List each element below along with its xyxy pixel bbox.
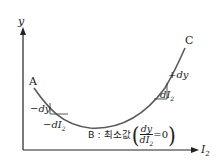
minimum-annotation: B : 최소값 ( dy dI2 =0 ) (88, 124, 176, 146)
left-di-label: −dI2 (43, 120, 66, 132)
y-axis-arrow-icon (20, 27, 26, 35)
paren-right: ) (168, 124, 176, 146)
x-axis-label: I2 (201, 144, 210, 158)
right-dy-label: +dy (168, 70, 188, 80)
derivative-fraction: dy dI2 (140, 124, 154, 146)
left-dy-label: −dy (30, 104, 50, 114)
paren-left: ( (132, 124, 140, 146)
right-di-label: dI2 (160, 90, 174, 102)
minimum-label: B : 최소값 (88, 130, 131, 140)
point-a-label: A (29, 76, 37, 87)
equals-zero: =0 (153, 130, 168, 140)
x-axis-arrow-icon (191, 147, 199, 153)
point-c-label: C (185, 35, 193, 46)
left-slope-triangle (50, 103, 68, 114)
y-axis-label: y (18, 16, 24, 27)
